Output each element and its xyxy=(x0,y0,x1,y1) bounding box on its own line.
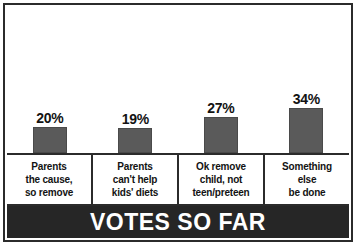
bar-value-label: 34% xyxy=(293,92,320,106)
bar-rect xyxy=(204,117,238,153)
category-label-line: else xyxy=(298,173,317,186)
bar-value-label: 20% xyxy=(36,111,63,125)
bar-column: 34% xyxy=(264,5,350,153)
footer-title: VOTES SO FAR xyxy=(90,211,266,234)
bar-rect xyxy=(289,108,323,153)
bar-column: 20% xyxy=(7,5,93,153)
bar-series: 20% 19% 27% 34% xyxy=(7,5,349,153)
category-label-line: kids' diets xyxy=(112,186,158,199)
category-label-line: child, not xyxy=(200,173,242,186)
category-label-line: Ok remove xyxy=(196,160,246,173)
bar-rect xyxy=(118,128,152,153)
footer-banner: VOTES SO FAR xyxy=(7,204,349,238)
category-label-line: can't help xyxy=(113,173,157,186)
category-labels-row: Parents the cause, so remove Parents can… xyxy=(7,155,349,204)
category-label-cell: Ok remove child, not teen/preteen xyxy=(179,155,265,204)
bar-rect xyxy=(33,127,67,153)
category-label-line: the cause, xyxy=(26,173,73,186)
bar-column: 27% xyxy=(178,5,264,153)
category-label-cell: Parents the cause, so remove xyxy=(7,155,93,204)
chart-plot-area: 20% 19% 27% 34% xyxy=(7,7,349,155)
bar-value-label: 27% xyxy=(207,101,234,115)
poll-results-widget: 20% 19% 27% 34% Parents xyxy=(0,0,356,245)
bar-value-label: 19% xyxy=(122,112,149,126)
category-label-line: Parents xyxy=(31,160,66,173)
category-label-line: Parents xyxy=(117,160,152,173)
category-label-line: be done xyxy=(289,186,326,199)
category-label-cell: Parents can't help kids' diets xyxy=(93,155,179,204)
category-label-cell: Something else be done xyxy=(265,155,349,204)
bar-column: 19% xyxy=(93,5,179,153)
category-label-line: teen/preteen xyxy=(192,186,249,199)
category-label-line: Something xyxy=(282,160,332,173)
poll-frame: 20% 19% 27% 34% Parents xyxy=(3,3,353,242)
category-label-line: so remove xyxy=(25,186,73,199)
